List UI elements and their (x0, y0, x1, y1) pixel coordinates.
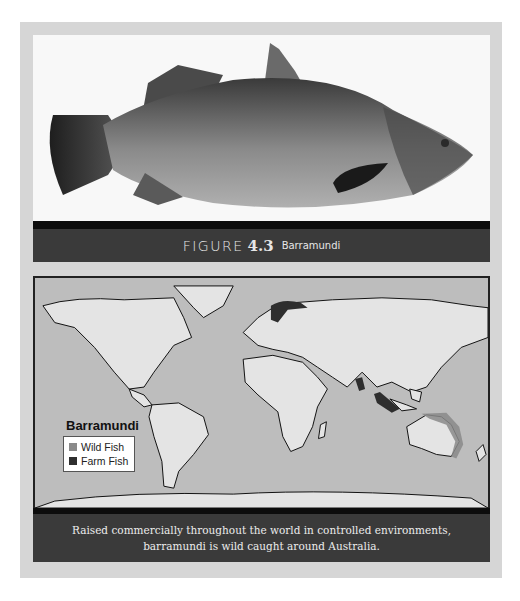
wild-fish-swatch (69, 443, 77, 451)
map-caption: Raised commercially throughout the world… (33, 514, 490, 562)
figure-label: FIGURE (183, 238, 244, 254)
legend-item-farm: Farm Fish (69, 454, 129, 468)
map-legend: Wild Fish Farm Fish (63, 436, 135, 472)
map-caption-text: Raised commercially throughout the world… (43, 522, 480, 554)
fish-photo (33, 35, 490, 221)
barramundi-illustration (33, 35, 490, 221)
world-map (33, 276, 490, 508)
farm-fish-swatch (69, 457, 77, 465)
world-map-svg (35, 278, 488, 508)
figure-caption-bar: FIGURE 4.3 Barramundi (33, 229, 490, 262)
legend-label: Farm Fish (81, 455, 128, 467)
legend-label: Wild Fish (81, 441, 124, 453)
legend-item-wild: Wild Fish (69, 440, 129, 454)
divider-bar (33, 221, 490, 229)
figure-number: 4.3 (248, 237, 274, 255)
legend-title: Barramundi (66, 418, 139, 433)
figure-title: Barramundi (282, 240, 341, 251)
